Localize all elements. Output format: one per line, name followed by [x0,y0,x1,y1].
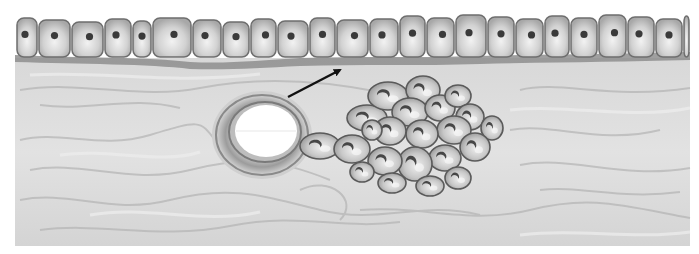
epithelial-cell [153,18,191,57]
epithelial-layer [17,15,689,57]
epithelial-cell [571,18,597,57]
epithelial-cell [488,17,514,57]
epithelial-cell [516,19,543,57]
epithelial-cell [223,22,249,57]
leukocyte-cell [362,120,382,140]
epithelial-cell [251,19,276,57]
epithelial-cell [684,16,689,57]
histology-illustration [0,0,699,254]
epithelial-cell [628,17,654,57]
epithelial-cell [599,15,626,57]
leukocyte-cell [378,173,406,193]
epithelial-cell [400,16,425,57]
epithelial-cell [193,20,221,57]
blood-vessel [212,91,312,179]
leukocyte-cell [445,167,471,189]
epithelial-cell [456,15,486,57]
epithelial-cell [337,20,368,57]
epithelial-cell [310,18,335,57]
epithelial-cell [133,21,151,57]
epithelial-cell [427,18,454,57]
leukocyte-cell [334,135,370,163]
epithelial-cell [278,21,308,57]
leukocyte-cell [350,162,374,182]
leukocyte-cell [460,133,490,161]
epithelial-cell [545,16,569,57]
epithelial-cell [17,18,37,57]
epithelial-cell [39,20,70,57]
epithelial-cell [370,19,398,57]
leukocyte-cell [406,120,438,148]
epithelial-cell [72,22,103,57]
epithelial-cell [656,19,682,57]
leukocyte-cell [416,176,444,196]
epithelial-cell [105,19,131,57]
